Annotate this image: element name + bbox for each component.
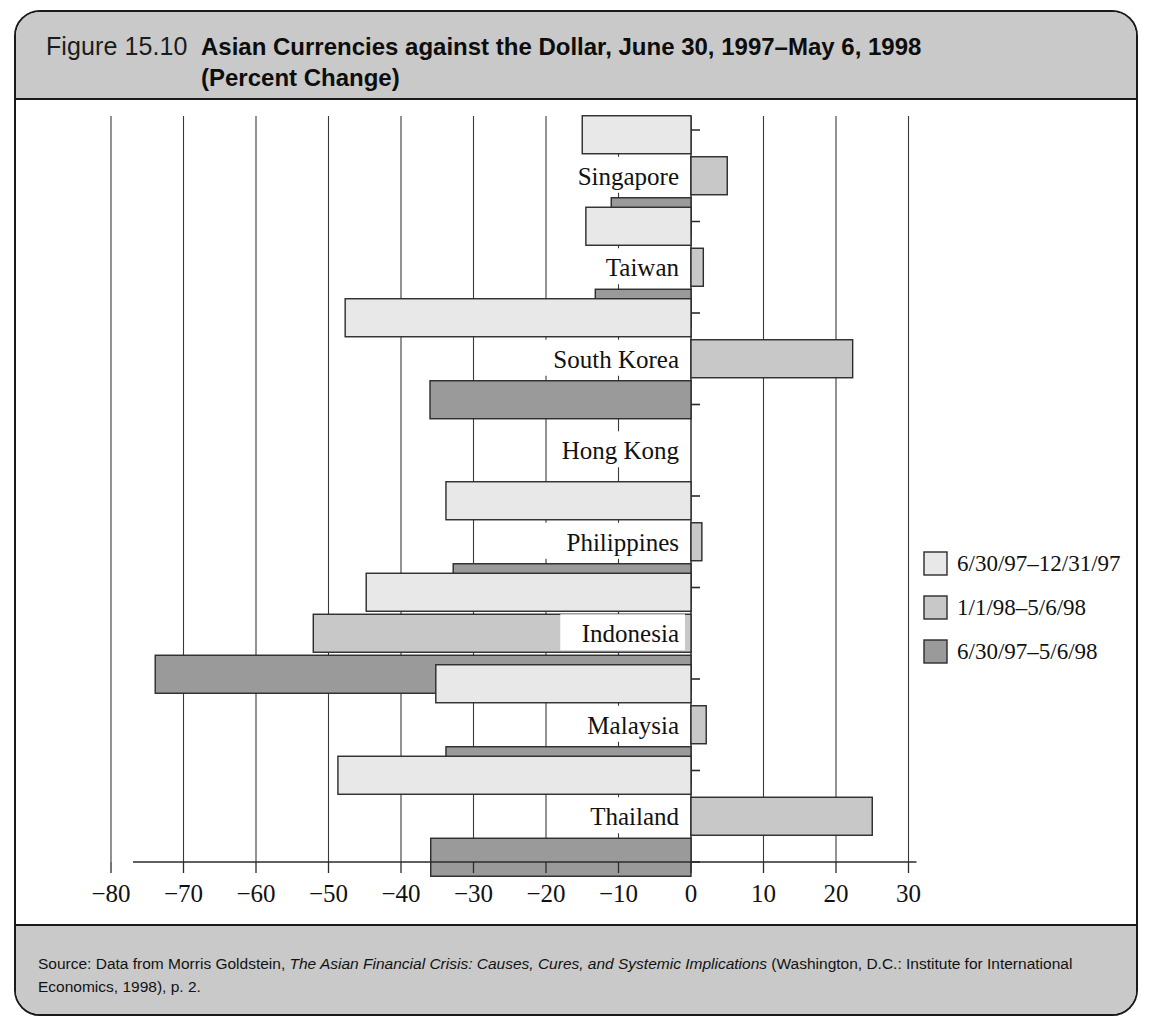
bar-indonesia-series-1 (366, 573, 691, 611)
legend-label-1[interactable]: 6/30/97–12/31/97 (957, 551, 1121, 576)
category-label-singapore: Singapore (578, 163, 679, 190)
x-tick-label-1: −70 (164, 880, 203, 907)
category-label-hong-kong: Hong Kong (562, 437, 680, 464)
legend-swatch-3[interactable] (924, 640, 947, 663)
x-tick-label-9: 10 (751, 880, 776, 907)
source-note: Source: Data from Morris Goldstein, The … (38, 952, 1123, 998)
figure-source-band: Source: Data from Morris Goldstein, The … (16, 924, 1136, 1014)
category-label-south-korea: South Korea (553, 346, 679, 373)
tick-labels-group: −80−70−60−50−40−30−20−100102030 (91, 880, 921, 907)
bar-taiwan-series-2 (691, 248, 703, 286)
bar-thailand-series-2 (691, 797, 872, 835)
figure-title-line-1: Asian Currencies against the Dollar, Jun… (201, 31, 1101, 62)
bar-philippines-series-2 (691, 523, 702, 561)
x-tick-label-10: 20 (824, 880, 849, 907)
bar-thailand-series-1 (338, 756, 691, 794)
bar-singapore-series-2 (691, 157, 727, 195)
x-tick-label-6: −20 (526, 880, 565, 907)
legend-group: 6/30/97–12/31/971/1/98–5/6/986/30/97–5/6… (924, 551, 1121, 664)
legend-label-3[interactable]: 6/30/97–5/6/98 (957, 639, 1098, 664)
legend-swatch-2[interactable] (924, 596, 947, 619)
bar-philippines-series-1 (446, 482, 691, 520)
x-tick-label-3: −50 (309, 880, 348, 907)
chart-plot-region: SingaporeTaiwanSouth KoreaHong KongPhili… (16, 100, 1136, 928)
x-tick-label-4: −40 (381, 880, 420, 907)
bar-malaysia-series-2 (691, 706, 706, 744)
legend-swatch-1[interactable] (924, 552, 947, 575)
category-label-philippines: Philippines (566, 529, 679, 556)
x-tick-label-2: −60 (236, 880, 275, 907)
category-label-malaysia: Malaysia (587, 712, 679, 739)
legend-label-2[interactable]: 1/1/98–5/6/98 (957, 595, 1086, 620)
bar-south-korea-series-1 (345, 299, 691, 337)
figure-title-block: Asian Currencies against the Dollar, Jun… (201, 31, 1101, 93)
bar-south-korea-series-3 (430, 381, 691, 419)
x-tick-label-0: −80 (91, 880, 130, 907)
source-prefix: Source: Data from Morris Goldstein, (38, 955, 290, 972)
figure-header-band: Figure 15.10 Asian Currencies against th… (16, 12, 1136, 100)
figure-frame: Figure 15.10 Asian Currencies against th… (14, 10, 1138, 1016)
category-label-taiwan: Taiwan (606, 254, 680, 281)
bar-taiwan-series-1 (586, 207, 691, 245)
x-tick-label-8: 0 (685, 880, 698, 907)
bars-group (155, 116, 872, 877)
category-label-thailand: Thailand (590, 803, 679, 830)
bar-thailand-series-3 (431, 838, 691, 876)
figure-number: Figure 15.10 (46, 32, 188, 61)
bar-south-korea-series-2 (691, 340, 853, 378)
figure-title-line-2: (Percent Change) (201, 62, 1101, 93)
bar-chart-svg: SingaporeTaiwanSouth KoreaHong KongPhili… (16, 100, 1136, 928)
x-tick-label-11: 30 (896, 880, 921, 907)
bar-malaysia-series-1 (436, 665, 691, 703)
x-tick-label-5: −30 (454, 880, 493, 907)
bar-singapore-series-1 (582, 116, 691, 154)
category-label-indonesia: Indonesia (582, 620, 679, 647)
source-publication-title: The Asian Financial Crisis: Causes, Cure… (290, 955, 768, 972)
x-tick-label-7: −10 (599, 880, 638, 907)
